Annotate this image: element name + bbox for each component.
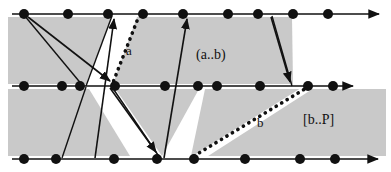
node-dot [328, 81, 338, 91]
node-dot [75, 81, 85, 91]
node-dot [152, 154, 162, 164]
node-dot [138, 9, 148, 19]
node-dot [253, 9, 263, 19]
node-dot [212, 81, 222, 91]
node-dot [193, 81, 203, 91]
node-dot [51, 154, 61, 164]
node-dot [189, 154, 199, 164]
node-dot [323, 9, 333, 19]
label-interval-open: (a..b) [196, 48, 226, 62]
node-dot [223, 9, 233, 19]
node-dot [110, 81, 120, 91]
node-dot [295, 154, 305, 164]
node-dot [19, 154, 29, 164]
label-b: b [257, 116, 264, 129]
label-a: a [126, 44, 132, 57]
node-dot [178, 9, 188, 19]
label-interval-closed: [b..P] [303, 113, 334, 127]
figure-svg [0, 0, 391, 172]
shaded-region-upper-left [8, 17, 112, 84]
node-dot [330, 154, 340, 164]
node-dot [63, 9, 73, 19]
node-dot [57, 81, 67, 91]
node-dot [19, 81, 29, 91]
node-dot [288, 9, 298, 19]
figure-root: a (a..b) b [b..P] [0, 0, 391, 172]
node-dot [160, 81, 170, 91]
node-dot [109, 154, 119, 164]
node-dot [303, 81, 313, 91]
node-dot [240, 154, 250, 164]
node-dot [255, 81, 265, 91]
node-dot [103, 9, 113, 19]
node-dot [19, 9, 29, 19]
